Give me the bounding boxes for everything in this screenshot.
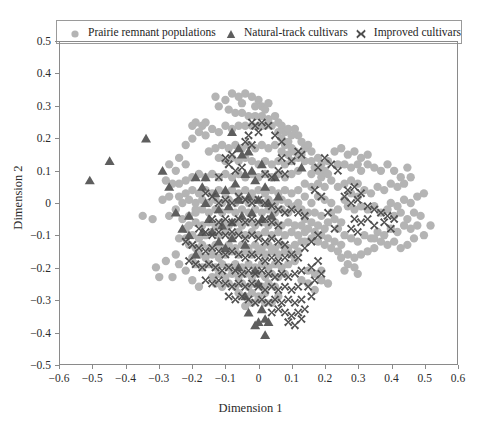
x-tick-label: −0.6 [49,372,70,384]
caption-sliver [0,424,501,431]
x-tick [192,365,193,369]
y-tick-label: −0.4 [13,327,51,339]
y-axis-title: Dimension 2 [11,138,26,258]
x-tick-label: 0.4 [384,372,398,384]
x-tick [92,365,93,369]
x-tick [292,365,293,369]
x-tick-label: 0.6 [451,372,465,384]
x-tick-label: 0.5 [418,372,432,384]
y-tick [55,268,59,269]
x-tick [225,365,226,369]
legend-label-improved-cultivars: Improved cultivars [374,26,461,38]
x-tick [325,365,326,369]
triangle-marker-icon [225,26,237,38]
y-tick [55,106,59,107]
y-tick [55,365,59,366]
x-tick-label: 0.2 [318,372,332,384]
y-tick-label: −0.5 [13,359,51,371]
y-tick [55,333,59,334]
x-tick-label: −0.3 [148,372,169,384]
scatter-plot-figure: Prairie remnant populations Natural-trac… [0,0,501,431]
scatter-points-canvas [60,42,457,364]
y-tick-label: 0.3 [13,100,51,112]
x-tick [358,365,359,369]
y-tick-label: −0.2 [13,262,51,274]
legend-label-natural-track-cultivars: Natural-track cultivars [244,26,348,38]
x-tick [392,365,393,369]
y-tick [55,73,59,74]
y-tick-label: −0.3 [13,294,51,306]
y-tick [55,300,59,301]
x-tick [458,365,459,369]
y-tick [55,203,59,204]
x-tick [259,365,260,369]
y-tick [55,235,59,236]
x-tick-label: 0 [256,372,262,384]
y-tick [55,41,59,42]
x-tick-label: 0.1 [285,372,299,384]
legend-entry-natural-track-cultivars: Natural-track cultivars [225,26,348,38]
y-tick [55,171,59,172]
x-tick-label: 0.3 [351,372,365,384]
plot-area [59,41,458,365]
x-tick [425,365,426,369]
x-tick-label: −0.2 [182,372,203,384]
legend-entry-prairie-remnant-populations: Prairie remnant populations [69,26,216,38]
y-tick-label: 0.4 [13,67,51,79]
x-tick [59,365,60,369]
x-tick-label: −0.4 [115,372,136,384]
legend-label-prairie-remnant-populations: Prairie remnant populations [88,26,216,38]
x-tick [159,365,160,369]
x-marker-icon [355,26,367,38]
series-circle [139,89,435,310]
x-tick-label: −0.5 [82,372,103,384]
x-tick-label: −0.1 [215,372,236,384]
circle-marker-icon [69,26,81,38]
y-tick [55,138,59,139]
x-axis-title: Dimension 1 [0,401,501,416]
legend-entry-improved-cultivars: Improved cultivars [355,26,461,38]
y-tick-label: 0.5 [13,35,51,47]
x-tick [126,365,127,369]
